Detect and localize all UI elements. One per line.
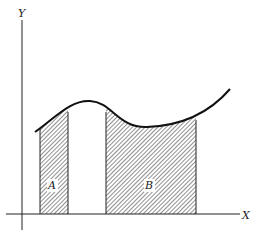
region-b-fill (106, 80, 196, 214)
area-diagram: Y X A B (0, 0, 263, 238)
x-axis-label: X (241, 209, 251, 222)
y-axis-label: Y (18, 7, 27, 20)
region-b-label: B (144, 179, 153, 192)
region-a-label: A (47, 179, 56, 192)
region-a-fill (40, 80, 68, 214)
